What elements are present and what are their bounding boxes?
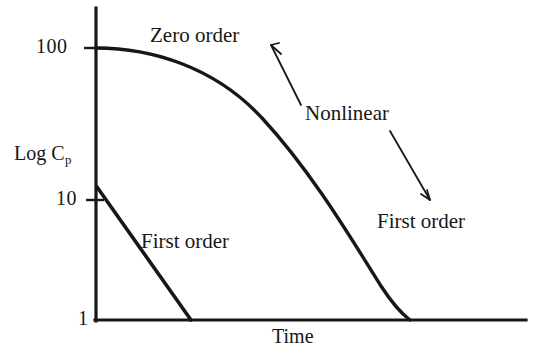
y-axis-title-subscript: p (65, 152, 72, 167)
y-tick-label-10: 10 (56, 188, 77, 208)
y-tick-label-1: 1 (78, 308, 89, 328)
x-axis-title: Time (272, 326, 314, 346)
y-tick-label-100: 100 (36, 36, 68, 56)
zero-order-label: Zero order (150, 25, 239, 46)
y-axis-title: Log Cp (14, 143, 72, 166)
first-order-line (97, 187, 191, 320)
nonlinear-label: Nonlinear (305, 103, 389, 124)
first-order-label-right: First order (377, 211, 465, 232)
y-axis-title-text: Log C (14, 142, 65, 164)
nonlinear-to-zero-order-arrow (271, 43, 301, 105)
first-order-label-left: First order (141, 231, 229, 252)
zero-order-curve (96, 48, 410, 320)
plot-svg (0, 0, 533, 354)
nonlinear-to-first-order-arrow (390, 131, 430, 200)
figure-root: 100 10 1 Log Cp Time Zero order First or… (0, 0, 533, 354)
